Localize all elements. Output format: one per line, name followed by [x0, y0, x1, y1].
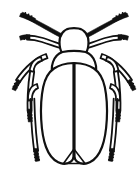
hind-leg-left: [28, 84, 40, 162]
hind-leg-right: [108, 84, 120, 162]
beetle-figure: [0, 0, 139, 174]
beetle-illustration: [0, 0, 139, 174]
elytron-left: [41, 63, 74, 164]
palp-right: [85, 35, 129, 49]
elytron-right: [75, 63, 108, 164]
palp-left: [20, 35, 64, 49]
head: [60, 28, 89, 53]
